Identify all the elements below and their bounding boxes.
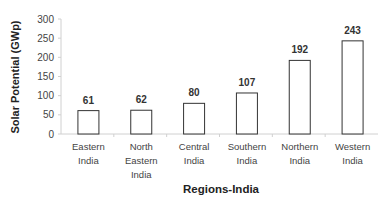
x-category-label: Southern [228,141,267,152]
y-tick-label: 300 [37,14,54,25]
bar-group: 107 [236,77,257,134]
bar-group: 192 [289,44,310,134]
y-tick-label: 200 [37,52,54,63]
data-label: 61 [83,95,95,106]
bar-group: 62 [131,94,152,134]
bar-chart: 050100150200250300 EasternIndiaNorthEast… [0,0,392,203]
x-category-label: North [130,141,153,152]
x-category-label: India [131,169,152,180]
bar [236,93,257,134]
x-category-label: Eastern [125,155,158,166]
x-axis-title: Regions-India [183,183,260,195]
y-tick-label: 50 [43,109,55,120]
x-category-label: India [78,155,99,166]
bar [342,41,363,134]
x-category-label: India [184,155,205,166]
data-label: 107 [239,77,256,88]
x-category-label: India [342,155,363,166]
x-category-label: Northern [281,141,318,152]
data-label: 192 [291,44,308,55]
bar [131,110,152,134]
bars: 616280107192243 [78,25,363,134]
data-label: 62 [136,94,148,105]
bar [289,60,310,134]
x-category-label: India [237,155,258,166]
y-tick-label: 100 [37,90,54,101]
bar-group: 80 [184,87,205,134]
data-label: 243 [344,25,361,36]
bar-group: 243 [342,25,363,134]
y-tick-label: 0 [48,129,54,140]
y-tick-label: 250 [37,33,54,44]
x-axis: EasternIndiaNorthEasternIndiaCentralIndi… [61,134,378,180]
bar [184,103,205,134]
x-category-label: Eastern [72,141,105,152]
y-axis-title: Solar Potential (GWp) [9,20,21,133]
bar [78,111,99,134]
bar-group: 61 [78,95,99,134]
data-label: 80 [189,87,201,98]
x-category-label: Western [335,141,370,152]
y-axis: 050100150200250300 [37,14,61,140]
x-category-label: India [289,155,310,166]
x-category-label: Central [179,141,210,152]
y-tick-label: 150 [37,71,54,82]
